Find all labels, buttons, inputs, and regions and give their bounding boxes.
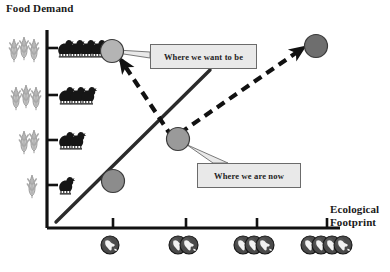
- y-axis-title: Food Demand: [6, 2, 68, 15]
- x-axis-title-line2: Footprint: [330, 216, 376, 228]
- y-axis-title-text: Food Demand: [6, 2, 73, 14]
- where-we-want-to-be-point: [101, 40, 124, 63]
- desired-trajectory-arrow: [121, 60, 172, 137]
- callout-where-we-want-to-be: Where we want to be: [150, 44, 257, 69]
- where-we-are-now-point: [167, 128, 190, 151]
- plot-layer: [0, 0, 390, 272]
- callout-where-we-are-now: Where we are now: [197, 163, 301, 188]
- x-axis-title: Ecological Footprint: [330, 203, 390, 228]
- business-as-usual-point: [305, 35, 328, 58]
- lower-left-point: [102, 170, 125, 193]
- x-axis-title-line1: Ecological: [330, 203, 379, 215]
- y-axis-ticks: [47, 48, 58, 185]
- callout-now-label: Where we are now: [214, 171, 284, 181]
- callout-want-label: Where we want to be: [164, 52, 243, 62]
- figure-canvas: Food Demand Ecological Footprint Where w…: [0, 0, 390, 272]
